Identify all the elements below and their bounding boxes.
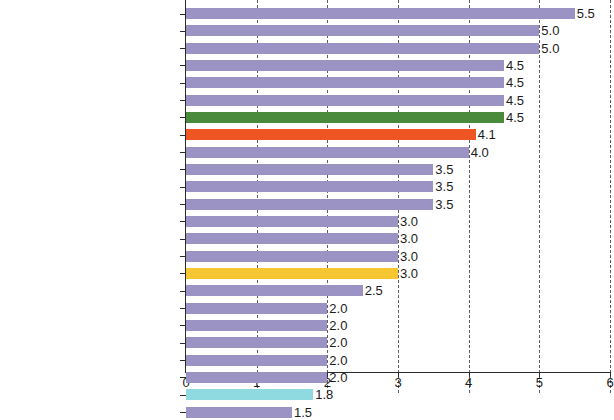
value-label-panama: 4.5	[506, 59, 524, 72]
value-label-colombia: 2.5	[365, 284, 383, 297]
bar-honduras	[186, 407, 292, 418]
value-label-central-america: 3.0	[400, 267, 418, 280]
value-label-venezuela-bol-rep-of: 2.0	[329, 302, 347, 315]
value-label-latin-america-and-the-caribbean: 4.1	[478, 128, 496, 141]
gridline-3	[398, 0, 399, 393]
gridline-5	[539, 0, 540, 393]
bar-latin-america-and-the-caribbean	[186, 129, 476, 140]
value-label-mexico: 3.5	[435, 180, 453, 193]
bar-panama	[186, 60, 504, 71]
bar-guatemala	[186, 355, 327, 366]
bar-colombia	[186, 285, 363, 296]
x-tick-label-5: 5	[519, 376, 559, 390]
bar-brazil	[186, 8, 575, 19]
value-label-dominican-republic: 3.5	[435, 163, 453, 176]
value-label-the-caribbean: 1.8	[315, 388, 333, 401]
bar-peru	[186, 43, 539, 54]
bar-paraguay	[186, 216, 398, 227]
bar-argentina	[186, 147, 469, 158]
value-label-haiti: 2.0	[329, 336, 347, 349]
value-label-nicaragua: 2.0	[329, 319, 347, 332]
value-label-chile: 4.5	[506, 76, 524, 89]
bar-ecuador	[186, 233, 398, 244]
gridline-4	[469, 0, 470, 393]
x-tick-label-6: 6	[590, 376, 614, 390]
gridline-2	[327, 0, 328, 393]
bar-south-america	[186, 112, 504, 123]
gridline-6	[610, 0, 611, 393]
value-label-cuba: 3.0	[400, 250, 418, 263]
bar-dominican-republic	[186, 164, 433, 175]
bar-chile	[186, 77, 504, 88]
bar-central-america	[186, 268, 398, 279]
bar-costa-rica	[186, 199, 433, 210]
bar-nicaragua	[186, 320, 327, 331]
x-tick-label-4: 4	[449, 376, 489, 390]
value-label-honduras: 1.5	[294, 406, 312, 419]
value-label-brazil: 5.5	[577, 7, 595, 20]
value-label-south-america: 4.5	[506, 111, 524, 124]
bar-bolivia-plur-state-of	[186, 95, 504, 106]
bar-mexico	[186, 181, 433, 192]
value-label-costa-rica: 3.5	[435, 198, 453, 211]
value-label-guatemala: 2.0	[329, 354, 347, 367]
value-label-paraguay: 3.0	[400, 215, 418, 228]
bar-uruguay	[186, 25, 539, 36]
value-label-el-salvador: 2.0	[329, 371, 347, 384]
value-label-ecuador: 3.0	[400, 232, 418, 245]
x-tick-label-3: 3	[378, 376, 418, 390]
bar-the-caribbean	[186, 389, 313, 400]
value-label-uruguay: 5.0	[541, 24, 559, 37]
value-label-bolivia-plur-state-of: 4.5	[506, 94, 524, 107]
bar-haiti	[186, 337, 327, 348]
value-label-argentina: 4.0	[471, 146, 489, 159]
bar-cuba	[186, 251, 398, 262]
bar-venezuela-bol-rep-of	[186, 303, 327, 314]
value-label-peru: 5.0	[541, 42, 559, 55]
gridline-1	[257, 0, 258, 393]
bar-el-salvador	[186, 372, 327, 383]
